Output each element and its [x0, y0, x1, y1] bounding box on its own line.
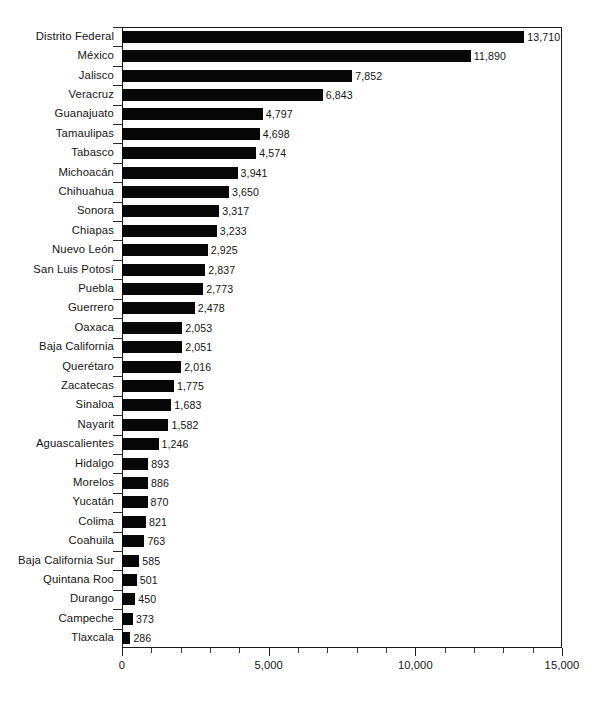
x-axis-minor-tick — [445, 648, 446, 653]
y-axis-tick — [113, 415, 122, 416]
y-axis-tick — [113, 570, 122, 571]
y-axis-tick — [113, 357, 122, 358]
bar-row: Morelos886 — [0, 473, 592, 492]
y-axis-tick — [113, 512, 122, 513]
y-axis-tick — [113, 143, 122, 144]
bar-value-label: 763 — [147, 536, 165, 547]
x-axis-minor-tick — [357, 648, 358, 653]
y-axis-tick — [113, 609, 122, 610]
category-label: Guerrero — [68, 303, 114, 314]
bar — [122, 438, 159, 450]
bar-value-label: 3,233 — [220, 225, 247, 236]
bar — [122, 50, 471, 62]
bar — [122, 244, 208, 256]
y-axis-tick — [113, 629, 122, 630]
bar-value-label: 6,843 — [326, 90, 353, 101]
bar-value-label: 3,650 — [232, 187, 259, 198]
x-axis-minor-tick — [181, 648, 182, 653]
y-axis-tick — [113, 493, 122, 494]
y-axis-tick — [113, 260, 122, 261]
bar-row: Michoacán3,941 — [0, 163, 592, 182]
bar — [122, 555, 139, 567]
bar-row: Campeche373 — [0, 609, 592, 628]
y-axis-tick — [113, 551, 122, 552]
bar-value-label: 4,574 — [259, 148, 286, 159]
bar-row: Hidalgo893 — [0, 454, 592, 473]
x-axis-major-tick — [122, 648, 123, 656]
y-axis-tick — [113, 202, 122, 203]
category-label: Sonora — [77, 206, 114, 217]
bar-value-label: 886 — [151, 478, 169, 489]
bar — [122, 361, 181, 373]
y-axis-tick — [113, 221, 122, 222]
bar-value-label: 13,710 — [527, 31, 560, 42]
bar-value-label: 2,773 — [206, 284, 233, 295]
bar — [122, 89, 323, 101]
bar-value-label: 450 — [138, 594, 156, 605]
bar-row: Aguascalientes1,246 — [0, 435, 592, 454]
x-axis-minor-tick — [474, 648, 475, 653]
bar-value-label: 893 — [151, 458, 169, 469]
bar — [122, 458, 148, 470]
x-axis-tick-label: 10,000 — [398, 660, 433, 671]
y-axis-tick — [113, 124, 122, 125]
bar-value-label: 1,775 — [177, 381, 204, 392]
category-label: Baja California Sur — [18, 555, 114, 566]
x-axis-minor-tick — [239, 648, 240, 653]
bar-value-label: 1,582 — [171, 420, 198, 431]
category-label: Jalisco — [79, 70, 114, 81]
bar-row: México11,890 — [0, 46, 592, 65]
category-label: Nayarit — [78, 419, 114, 430]
bar — [122, 632, 130, 644]
category-label: Veracruz — [69, 89, 114, 100]
bar-value-label: 3,941 — [241, 167, 268, 178]
x-axis-major-tick — [562, 648, 563, 656]
bar — [122, 535, 144, 547]
bar-row: Sonora3,317 — [0, 202, 592, 221]
bar-row: Distrito Federal13,710 — [0, 27, 592, 46]
y-axis-tick — [113, 473, 122, 474]
x-axis-minor-tick — [298, 648, 299, 653]
category-label: Michoacán — [58, 167, 114, 178]
bar-row: Jalisco7,852 — [0, 66, 592, 85]
category-label: Hidalgo — [75, 458, 114, 469]
bar — [122, 283, 203, 295]
x-axis: 05,00010,00015,000 — [122, 648, 562, 702]
category-label: Guanajuato — [55, 109, 114, 120]
bar — [122, 322, 182, 334]
bar-value-label: 4,698 — [263, 128, 290, 139]
x-axis-minor-tick — [386, 648, 387, 653]
category-label: Querétaro — [62, 361, 114, 372]
x-axis-minor-tick — [533, 648, 534, 653]
bar-value-label: 2,053 — [185, 323, 212, 334]
bar — [122, 516, 146, 528]
category-label: Zacatecas — [61, 380, 114, 391]
bar-row: Yucatán870 — [0, 493, 592, 512]
bar-value-label: 1,246 — [162, 439, 189, 450]
bar-row: Nuevo León2,925 — [0, 240, 592, 259]
bar-row: Oaxaca2,053 — [0, 318, 592, 337]
bar-row: Quintana Roo501 — [0, 570, 592, 589]
bar-value-label: 286 — [133, 633, 151, 644]
bar-value-label: 2,925 — [211, 245, 238, 256]
category-label: Distrito Federal — [36, 31, 114, 42]
bar-value-label: 870 — [151, 497, 169, 508]
bar-row: Tlaxcala286 — [0, 629, 592, 648]
bar — [122, 264, 205, 276]
category-label: Puebla — [78, 283, 114, 294]
bar-row: Durango450 — [0, 590, 592, 609]
bar — [122, 108, 263, 120]
category-label: Oaxaca — [74, 322, 114, 333]
bar — [122, 574, 137, 586]
y-axis-tick — [113, 454, 122, 455]
y-axis-tick — [113, 590, 122, 591]
bar — [122, 341, 182, 353]
bar-value-label: 373 — [136, 614, 154, 625]
bar — [122, 70, 352, 82]
bar — [122, 147, 256, 159]
y-axis-tick — [113, 338, 122, 339]
y-axis-tick — [113, 27, 122, 28]
bar-row: San Luis Potosí2,837 — [0, 260, 592, 279]
y-axis-tick — [113, 163, 122, 164]
category-label: México — [78, 50, 114, 61]
